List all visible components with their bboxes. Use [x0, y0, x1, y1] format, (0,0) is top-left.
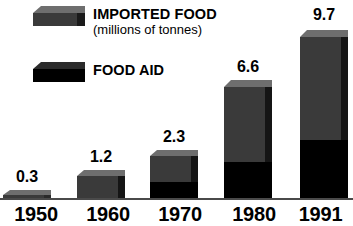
bar-side-face-lower [265, 162, 272, 199]
bar-side-face-upper [341, 37, 348, 140]
bar-chart: IMPORTED FOOD (millions of tonnes) FOOD … [0, 0, 353, 226]
segment-imported-food [300, 37, 341, 140]
swatch-side-face [77, 13, 85, 26]
food-aid-swatch [33, 62, 85, 82]
segment-imported-food [150, 156, 191, 182]
bar-1970 [150, 150, 198, 199]
value-label-1991: 9.7 [300, 6, 348, 24]
imported-food-swatch [33, 6, 85, 26]
swatch-front-face [33, 13, 77, 26]
x-tick-1980: 1980 [218, 202, 290, 226]
bar-front-1960 [77, 176, 118, 199]
legend-label-food-aid: FOOD AID [93, 62, 164, 78]
bar-side-face-lower [191, 182, 198, 199]
segment-imported-food [224, 87, 265, 162]
segment-food-aid [224, 162, 265, 199]
bar-front-1980 [224, 87, 265, 199]
swatch-side-face [77, 69, 85, 82]
bar-1980 [224, 80, 272, 199]
bar-side-face [118, 176, 125, 199]
x-tick-1960: 1960 [72, 202, 144, 226]
bar-front-1970 [150, 156, 191, 199]
swatch-top-bevel [33, 6, 41, 13]
bar-side-face-lower [341, 140, 348, 199]
value-label-1970: 2.3 [150, 128, 198, 146]
x-axis-baseline [0, 198, 353, 200]
bar-side-face-upper [265, 87, 272, 162]
segment-food-aid [150, 182, 191, 199]
value-label-1980: 6.6 [224, 58, 272, 76]
bar-front-1991 [300, 37, 341, 199]
swatch-front-face [33, 69, 77, 82]
legend-label-imported-food: IMPORTED FOOD [93, 6, 217, 22]
bar-1991 [300, 30, 348, 199]
bar-1960 [77, 170, 125, 199]
x-tick-1970: 1970 [144, 202, 216, 226]
value-label-1960: 1.2 [77, 148, 125, 166]
swatch-top-bevel [33, 62, 41, 69]
swatch-top-face [41, 62, 85, 69]
x-tick-1991: 1991 [288, 202, 353, 226]
segment-food-aid [300, 140, 341, 199]
bar-top-face [231, 80, 272, 87]
swatch-top-face [41, 6, 85, 13]
legend-sublabel-units: (millions of tonnes) [93, 22, 217, 38]
value-label-1950: 0.3 [3, 168, 51, 186]
segment-imported-food [77, 176, 118, 199]
legend-text-block: IMPORTED FOOD (millions of tonnes) [93, 6, 217, 38]
bar-top-bevel [300, 30, 307, 37]
bar-top-bevel [224, 80, 231, 87]
bar-side-face-upper [191, 156, 198, 182]
bar-top-face [307, 30, 348, 37]
legend-text-block: FOOD AID [93, 62, 164, 78]
x-tick-1950: 1950 [0, 202, 72, 226]
